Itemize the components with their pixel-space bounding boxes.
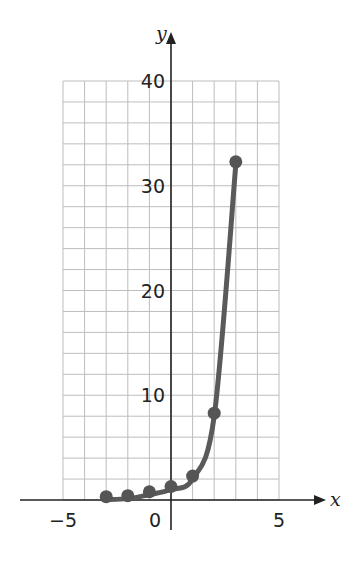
data-point (100, 490, 113, 503)
x-axis-arrow-icon (314, 495, 326, 505)
axes: x y (20, 22, 341, 530)
data-point (208, 407, 221, 420)
data-point (165, 480, 178, 493)
y-tick-label: 10 (141, 384, 165, 406)
x-axis-label: x (330, 488, 341, 510)
y-tick-label: 20 (141, 280, 165, 302)
y-tick-label: 30 (141, 175, 165, 197)
data-point (229, 155, 242, 168)
data-point (121, 489, 134, 502)
y-axis-arrow-icon (166, 32, 176, 44)
data-point (143, 485, 156, 498)
x-tick-label: 5 (273, 509, 285, 531)
exponential-chart: x y −50510203040 (0, 0, 356, 565)
y-tick-label: 40 (141, 70, 165, 92)
x-tick-label: 0 (149, 509, 161, 531)
data-point (186, 470, 199, 483)
x-tick-label: −5 (49, 509, 77, 531)
y-axis-label: y (155, 22, 167, 44)
